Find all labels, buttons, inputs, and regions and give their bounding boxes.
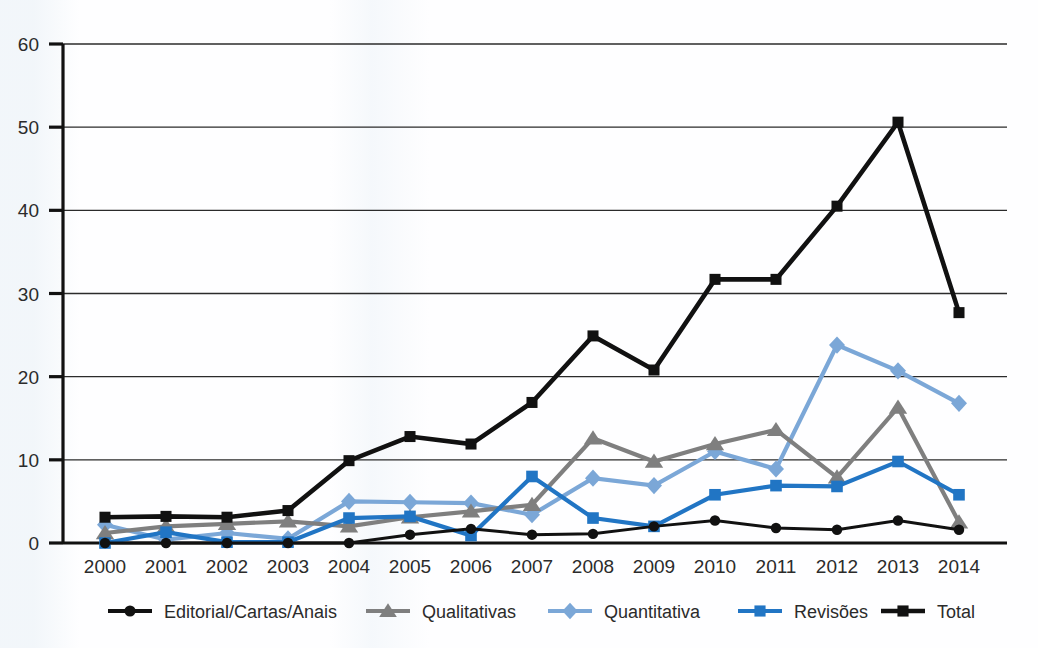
legend-square-marker-icon: [897, 605, 908, 616]
data-point-marker: [587, 512, 599, 524]
data-point-marker: [831, 481, 843, 493]
legend-item-quantitativa[interactable]: Quantitativa: [548, 602, 701, 622]
data-point-marker: [646, 477, 662, 494]
x-tick-label: 2003: [267, 556, 309, 577]
x-tick-label: 2012: [816, 556, 858, 577]
x-tick-label: 2013: [877, 556, 919, 577]
x-tick-label: 2000: [84, 556, 126, 577]
legend-label: Qualitativas: [422, 602, 516, 622]
series-group: [96, 117, 968, 549]
x-tick-label: 2005: [389, 556, 431, 577]
series-total: [99, 117, 964, 523]
data-point-marker: [404, 431, 415, 442]
x-tick-label: 2010: [694, 556, 736, 577]
data-point-marker: [767, 422, 785, 436]
data-point-marker: [709, 489, 721, 501]
legend-group: Editorial/Cartas/AnaisQualitativasQuanti…: [108, 602, 975, 622]
data-point-marker: [831, 201, 842, 212]
series-line: [105, 122, 959, 517]
x-tick-label: 2001: [145, 556, 187, 577]
x-tick-label: 2009: [633, 556, 675, 577]
data-point-marker: [160, 511, 171, 522]
data-point-marker: [953, 489, 965, 501]
data-point-marker: [343, 512, 355, 524]
y-tick-labels-group: 0102030405060: [18, 34, 39, 554]
data-point-marker: [951, 395, 967, 412]
data-point-marker: [892, 117, 903, 128]
legend-item-editorial-cartas-anais[interactable]: Editorial/Cartas/Anais: [108, 602, 337, 622]
data-point-marker: [893, 515, 903, 525]
y-tick-label: 0: [28, 533, 39, 554]
x-tick-label: 2007: [511, 556, 553, 577]
data-point-marker: [160, 526, 172, 538]
data-point-marker: [892, 456, 904, 468]
data-point-marker: [832, 524, 842, 534]
y-axis-group: [49, 44, 63, 543]
legend-label: Total: [937, 602, 975, 622]
gridlines-group: [63, 44, 1007, 543]
data-point-marker: [770, 480, 782, 492]
data-point-marker: [648, 365, 659, 376]
y-tick-label: 50: [18, 117, 39, 138]
data-point-marker: [953, 307, 964, 318]
data-point-marker: [527, 529, 537, 539]
legend-item-revis-es[interactable]: Revisões: [738, 602, 868, 622]
legend-label: Editorial/Cartas/Anais: [164, 602, 337, 622]
x-tick-labels-group: 2000200120022003200420052006200720082009…: [84, 556, 981, 577]
legend-label: Quantitativa: [604, 602, 701, 622]
x-tick-label: 2011: [756, 556, 797, 577]
chart-figure: 0102030405060 20002001200220032004200520…: [0, 0, 1038, 648]
data-point-marker: [584, 430, 602, 444]
y-tick-label: 60: [18, 34, 39, 55]
legend-circle-marker-icon: [124, 605, 135, 616]
legend-item-total[interactable]: Total: [881, 602, 975, 622]
data-point-marker: [100, 538, 110, 548]
data-point-marker: [587, 330, 598, 341]
data-point-marker: [341, 493, 357, 510]
data-point-marker: [889, 399, 907, 413]
data-point-marker: [222, 538, 232, 548]
data-point-marker: [343, 455, 354, 466]
y-tick-label: 30: [18, 284, 39, 305]
x-tick-label: 2002: [206, 556, 248, 577]
y-tick-label: 40: [18, 200, 39, 221]
data-point-marker: [829, 336, 845, 353]
data-point-marker: [771, 523, 781, 533]
data-point-marker: [465, 439, 476, 450]
legend-square-marker-icon: [754, 605, 765, 616]
data-point-marker: [770, 274, 781, 285]
data-point-marker: [283, 538, 293, 548]
legend-diamond-marker-icon: [562, 603, 577, 620]
x-tick-label: 2004: [328, 556, 371, 577]
data-point-marker: [709, 274, 720, 285]
data-point-marker: [221, 512, 232, 523]
data-point-marker: [161, 538, 171, 548]
y-tick-label: 10: [18, 450, 39, 471]
data-point-marker: [402, 494, 418, 511]
data-point-marker: [585, 470, 601, 487]
legend-label: Revisões: [794, 602, 868, 622]
data-point-marker: [526, 471, 538, 483]
data-point-marker: [99, 512, 110, 523]
x-tick-label: 2008: [572, 556, 614, 577]
data-point-marker: [768, 460, 784, 477]
data-point-marker: [466, 524, 476, 534]
x-tick-label: 2006: [450, 556, 492, 577]
data-point-marker: [710, 515, 720, 525]
data-point-marker: [954, 524, 964, 534]
legend-item-qualitativas[interactable]: Qualitativas: [366, 602, 516, 622]
y-tick-label: 20: [18, 367, 39, 388]
data-point-marker: [405, 529, 415, 539]
x-tick-label: 2014: [938, 556, 981, 577]
data-point-marker: [649, 521, 659, 531]
data-point-marker: [404, 511, 416, 523]
line-chart-plot: 0102030405060 20002001200220032004200520…: [0, 0, 1038, 648]
data-point-marker: [588, 529, 598, 539]
data-point-marker: [526, 397, 537, 408]
data-point-marker: [344, 538, 354, 548]
data-point-marker: [282, 505, 293, 516]
